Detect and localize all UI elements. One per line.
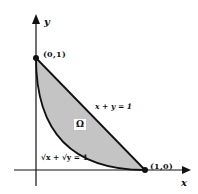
curve-equation-label: √x + √y = 1 (41, 154, 88, 162)
y-axis-label: y (44, 17, 50, 27)
line-equation-label: x + y = 1 (95, 103, 132, 111)
point-label-1-0: (1,0) (150, 162, 173, 170)
region-omega-label: Ω (74, 119, 86, 130)
point-1-0 (142, 167, 148, 173)
x-axis-label: x (181, 178, 187, 188)
point-label-0-1: (0,1) (43, 50, 66, 58)
y-axis-arrow-icon (32, 14, 40, 24)
x-axis-arrow-icon (182, 166, 191, 174)
region-diagram: y x (0,1) (1,0) x + y = 1 Ω √x + √y = 1 (0, 0, 198, 194)
point-0-1 (33, 55, 39, 61)
